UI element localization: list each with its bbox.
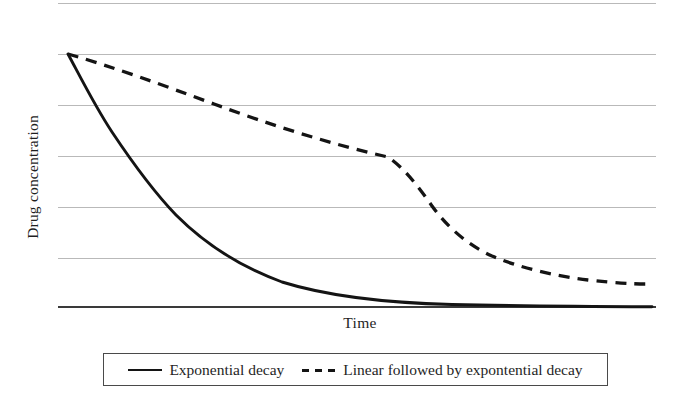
dashed-line-swatch-icon xyxy=(302,365,336,375)
legend-label: Linear followed by expontential decay xyxy=(343,362,582,378)
series-exponential-decay xyxy=(68,54,652,307)
gridlines xyxy=(58,4,656,259)
legend-entry-linear-then-exponential-decay[interactable]: Linear followed by expontential decay xyxy=(293,362,591,378)
chart-figure: Drug concentration Time Exponential deca… xyxy=(0,0,683,412)
legend-label: Exponential decay xyxy=(169,362,284,378)
x-axis-label: Time xyxy=(280,314,440,332)
y-axis-label: Drug concentration xyxy=(24,82,42,272)
solid-line-swatch-icon xyxy=(128,365,162,375)
legend: Exponential decay Linear followed by exp… xyxy=(103,353,608,386)
legend-entry-exponential-decay[interactable]: Exponential decay xyxy=(119,362,293,378)
series-linear-then-exponential-decay xyxy=(68,54,646,284)
plot-area xyxy=(0,0,683,412)
